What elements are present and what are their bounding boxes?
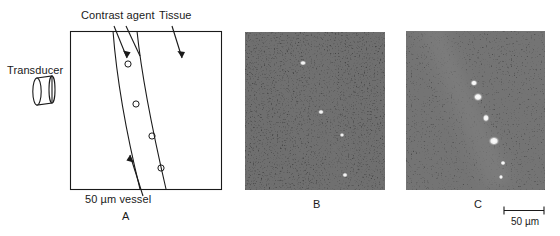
panel-c-image: [406, 31, 545, 190]
tissue-frame: [71, 32, 222, 190]
transducer-icon: [33, 76, 55, 105]
bright-scatterer: [318, 109, 325, 115]
microbubble: [125, 61, 131, 67]
scale-bar: [503, 206, 545, 215]
label-vessel-size: 50 µm vessel: [85, 193, 151, 205]
bright-microbubble: [488, 136, 500, 146]
arrowhead-contrast-agent: [123, 51, 131, 58]
bright-microbubble: [482, 114, 490, 123]
bright-microbubble: [473, 92, 483, 101]
bright-scatterer: [339, 132, 345, 137]
bright-microbubble: [470, 80, 478, 87]
panel-letter-b: B: [313, 198, 320, 210]
bright-microbubble: [499, 174, 504, 179]
microbubble: [133, 101, 139, 107]
panel-b-image: [245, 32, 385, 190]
bright-scatterer: [299, 60, 307, 66]
bright-microbubble: [500, 160, 506, 165]
figure-container: Contrast agent Tissue Transducer 50 µm v…: [0, 0, 560, 236]
panel-a: Contrast agent Tissue Transducer 50 µm v…: [0, 0, 240, 236]
label-contrast-agent: Contrast agent: [81, 9, 155, 21]
label-transducer: Transducer: [7, 64, 63, 76]
panel-letter-a: A: [122, 210, 129, 222]
panel-letter-c: C: [474, 198, 482, 210]
scale-bar-label: 50 µm: [500, 216, 550, 227]
bright-scatterer: [342, 172, 348, 178]
label-tissue: Tissue: [159, 9, 192, 21]
